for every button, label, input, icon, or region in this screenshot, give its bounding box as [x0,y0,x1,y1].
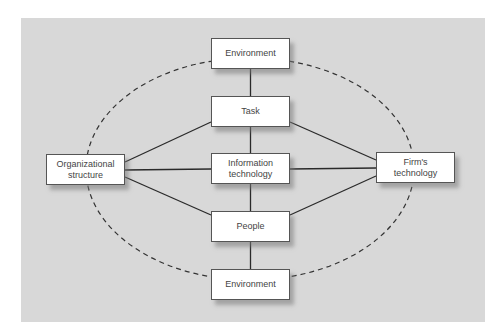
edge-firm-it [290,168,376,169]
edge-org-people [125,177,211,215]
node-label-line2: structure [68,170,103,181]
node-organizational-structure: Organizational structure [46,154,125,185]
edge-org-it [125,169,211,170]
node-label: People [236,221,264,232]
node-firms-technology: Firm's technology [376,152,455,183]
node-people: People [211,211,290,242]
node-label-line1: Organizational [56,159,114,170]
node-label-line2: technology [229,169,273,180]
node-label-line1: Firm's [403,157,427,168]
node-environment-top: Environment [211,38,290,69]
edge-firm-task [290,122,376,160]
edge-firm-people [290,176,376,215]
node-environment-bottom: Environment [211,269,290,300]
node-label: Task [241,106,260,117]
node-label: Environment [225,279,276,290]
node-label-line1: Information [228,158,273,169]
node-label-line2: technology [394,168,438,179]
edge-org-task [125,122,211,162]
node-task: Task [211,96,290,127]
node-label: Environment [225,48,276,59]
node-information-technology: Information technology [211,153,290,184]
